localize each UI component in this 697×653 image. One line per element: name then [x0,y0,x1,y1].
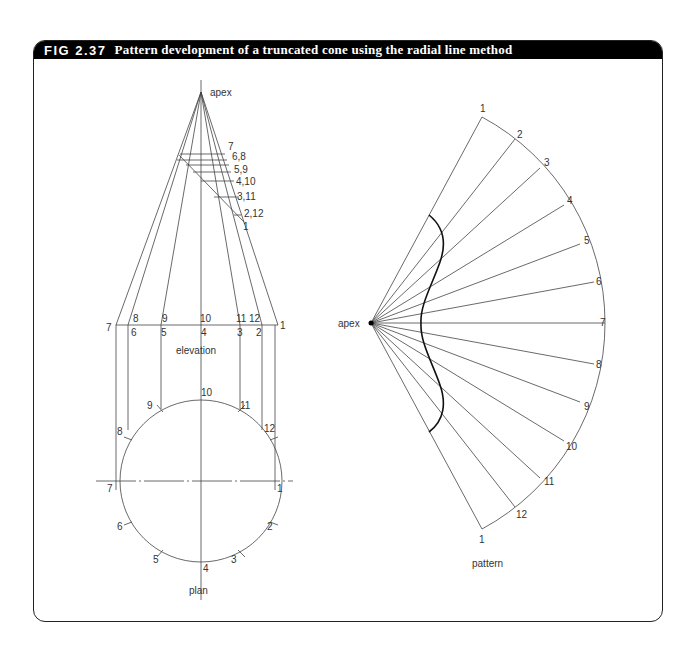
svg-text:12: 12 [264,423,276,434]
svg-text:9: 9 [584,401,590,412]
pattern-apex-point [369,321,374,326]
svg-text:1: 1 [479,534,485,545]
svg-text:11: 11 [236,313,247,324]
svg-text:4,10: 4,10 [236,176,256,187]
elevation-apex-label: apex [210,87,232,98]
svg-text:2: 2 [267,521,273,532]
svg-text:11: 11 [544,476,555,487]
svg-text:6: 6 [117,521,123,532]
svg-text:2: 2 [256,327,262,338]
truncation-curve [421,215,443,432]
svg-text:5,9: 5,9 [234,164,248,175]
svg-text:9: 9 [147,400,153,411]
pattern-view [371,117,605,529]
svg-text:3: 3 [237,327,243,338]
elevation-view [116,80,278,600]
plan-label: plan [189,585,208,596]
svg-text:6,8: 6,8 [232,151,246,162]
svg-text:7: 7 [107,483,113,494]
svg-text:2: 2 [517,129,523,140]
svg-text:3: 3 [544,157,550,168]
svg-text:4: 4 [567,195,573,206]
svg-text:7: 7 [106,322,112,333]
technical-drawing: apex 7 6,8 5,9 4,10 3,11 2,12 1 8 9 10 1… [0,0,697,653]
svg-text:12: 12 [249,313,261,324]
svg-text:10: 10 [200,313,212,324]
svg-text:2,12: 2,12 [244,208,264,219]
svg-text:5: 5 [161,327,167,338]
svg-text:5: 5 [584,235,590,246]
svg-text:1: 1 [280,320,286,331]
pattern-label: pattern [472,558,503,569]
svg-text:7: 7 [600,317,606,328]
cone-left-side [116,92,201,325]
svg-text:9: 9 [162,313,168,324]
svg-text:8: 8 [596,359,602,370]
svg-text:1: 1 [243,221,249,232]
svg-text:6: 6 [596,276,602,287]
svg-text:8: 8 [117,426,123,437]
svg-text:8: 8 [133,313,139,324]
svg-text:11: 11 [240,400,251,411]
svg-text:1: 1 [480,103,486,114]
svg-text:4: 4 [201,327,207,338]
svg-text:10: 10 [201,387,213,398]
svg-text:3: 3 [231,554,237,565]
svg-text:3,11: 3,11 [237,191,256,202]
svg-text:12: 12 [516,509,528,520]
pattern-apex-label: apex [338,318,360,329]
elevation-label: elevation [176,345,216,356]
cone-right-side [201,92,278,325]
svg-text:1: 1 [277,483,283,494]
svg-text:10: 10 [566,441,578,452]
svg-text:6: 6 [131,327,137,338]
svg-text:5: 5 [153,554,159,565]
svg-text:4: 4 [203,563,209,574]
